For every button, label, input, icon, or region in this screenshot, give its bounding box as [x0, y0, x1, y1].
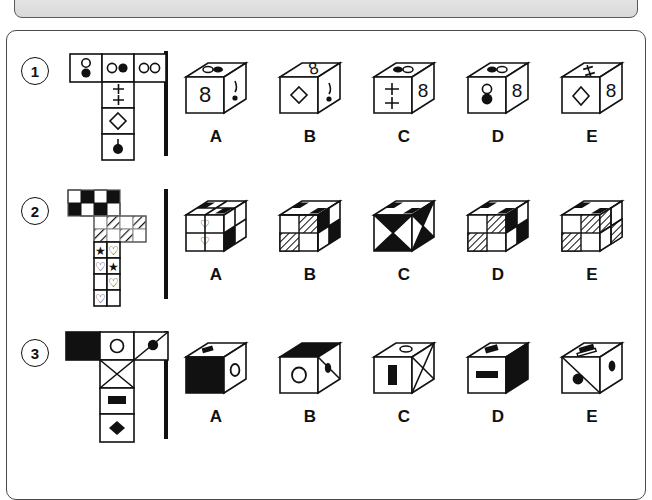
option-label-1-C: C [356, 127, 452, 147]
cube-3-E [544, 333, 640, 403]
cube-3-A [168, 333, 264, 403]
option-label-1-D: D [450, 127, 546, 147]
cube-3-C [356, 333, 452, 403]
option-1-A[interactable]: 8 A [168, 53, 264, 147]
svg-text:★: ★ [95, 244, 106, 258]
row-number-1: 1 [21, 57, 49, 85]
option-label-1-A: A [168, 127, 264, 147]
cube-2-E [544, 191, 640, 261]
puzzle-row-3: 3 [7, 321, 647, 466]
row-number-3: 3 [21, 339, 49, 367]
option-label-2-B: B [262, 265, 358, 285]
cube-2-C [356, 191, 452, 261]
cube-1-A: 8 [168, 53, 264, 123]
window-top-bar [14, 0, 638, 18]
option-label-1-E: E [544, 127, 640, 147]
svg-text:★: ★ [108, 260, 119, 274]
net-diagram-1 [69, 53, 169, 161]
svg-text:8: 8 [512, 80, 523, 101]
cube-1-B: 8 [262, 53, 358, 123]
option-2-B[interactable]: B [262, 191, 358, 285]
cube-1-E: 8 [544, 53, 640, 123]
option-1-E[interactable]: 8 E [544, 53, 640, 147]
puzzle-panel: 1 [6, 30, 646, 500]
option-label-2-E: E [544, 265, 640, 285]
puzzle-row-2: 2 [7, 179, 647, 324]
cube-1-D: 8 [450, 53, 546, 123]
option-2-D[interactable]: D [450, 191, 546, 285]
svg-text:♡: ♡ [108, 276, 119, 290]
option-label-3-A: A [168, 407, 264, 427]
svg-text:8: 8 [199, 82, 211, 107]
option-label-3-E: E [544, 407, 640, 427]
cube-3-D [450, 333, 546, 403]
cube-2-B [262, 191, 358, 261]
puzzle-row-1: 1 [7, 39, 647, 184]
option-label-1-B: B [262, 127, 358, 147]
cube-2-D [450, 191, 546, 261]
svg-text:♡: ♡ [108, 244, 119, 258]
net-diagram-3 [65, 331, 171, 443]
option-3-C[interactable]: C [356, 333, 452, 427]
cube-1-C: 8 [356, 53, 452, 123]
option-2-A[interactable]: ♡ ♡ A [168, 191, 264, 285]
option-label-2-C: C [356, 265, 452, 285]
option-label-3-C: C [356, 407, 452, 427]
option-label-3-D: D [450, 407, 546, 427]
option-2-E[interactable]: E [544, 191, 640, 285]
net-diagram-2: ★ ♡ ♡ ★ ♡ ♡ [67, 189, 171, 311]
option-1-B[interactable]: 8 B [262, 53, 358, 147]
option-1-C[interactable]: 8 C [356, 53, 452, 147]
option-3-A[interactable]: A [168, 333, 264, 427]
svg-text:8: 8 [418, 80, 429, 101]
option-label-3-B: B [262, 407, 358, 427]
svg-text:♡: ♡ [95, 260, 106, 274]
row-number-2: 2 [21, 197, 49, 225]
option-2-C[interactable]: C [356, 191, 452, 285]
option-label-2-D: D [450, 265, 546, 285]
option-3-E[interactable]: E [544, 333, 640, 427]
svg-text:♡: ♡ [95, 292, 106, 306]
option-3-D[interactable]: D [450, 333, 546, 427]
option-3-B[interactable]: B [262, 333, 358, 427]
svg-text:8: 8 [606, 80, 617, 101]
cube-2-A: ♡ ♡ [168, 191, 264, 261]
option-label-2-A: A [168, 265, 264, 285]
cube-3-B [262, 333, 358, 403]
option-1-D[interactable]: 8 D [450, 53, 546, 147]
